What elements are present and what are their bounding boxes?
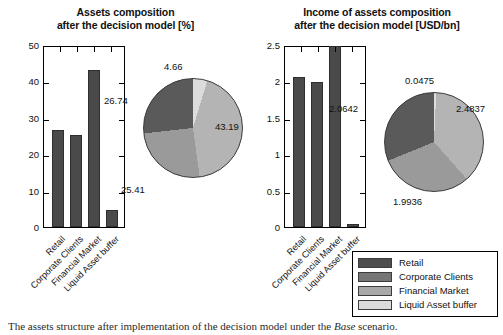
income-title-line1: Income of assets composition <box>251 6 503 19</box>
legend-swatch-financial-market <box>358 286 392 296</box>
assets-ytick-label: 20 <box>15 150 39 159</box>
assets-composition-title: Assets composition after the decision mo… <box>0 6 251 32</box>
legend-label-retail: Retail <box>399 258 423 268</box>
income-y-tick-right <box>360 120 365 121</box>
assets-ytick-label: 10 <box>15 187 39 196</box>
income-title-line2: after the decision model [USD/bn] <box>251 19 503 32</box>
income-top-tick <box>301 47 302 52</box>
caption-emphasis: Base <box>334 320 355 332</box>
legend-label-liquid-asset-buffer: Liquid Asset buffer <box>399 300 477 310</box>
income-y-tick <box>285 156 290 157</box>
bar-financial-market <box>329 46 341 227</box>
income-pie-value-corporate: 1.9936 <box>393 197 422 207</box>
bar-financial-market <box>88 70 100 227</box>
income-ytick-label: 1 <box>256 150 280 159</box>
income-ytick-label: 1.5 <box>256 114 280 123</box>
income-top-tick <box>352 47 353 52</box>
income-pie-value-liquid: 0.0475 <box>405 76 434 86</box>
income-ytick-label: 0.5 <box>256 187 280 196</box>
legend-label-corporate-clients: Corporate Clients <box>399 272 473 282</box>
income-y-tick-right <box>360 193 365 194</box>
legend-swatch-corporate-clients <box>358 272 392 282</box>
assets-y-tick-right <box>119 83 124 84</box>
assets-ytick-label: 30 <box>15 114 39 123</box>
assets-pie-value-retail: 26.74 <box>104 96 128 106</box>
assets-y-tick-right <box>119 120 124 121</box>
legend-swatch-liquid-asset-buffer <box>358 300 392 310</box>
bar-liquid-asset-buffer <box>106 210 118 227</box>
bar-retail <box>52 130 64 227</box>
bar-retail <box>293 77 305 227</box>
assets-top-tick <box>94 47 95 52</box>
income-composition-title: Income of assets composition after the d… <box>251 6 503 32</box>
bar-liquid-asset-buffer <box>347 224 359 228</box>
assets-top-tick <box>111 47 112 52</box>
bar-corporate-clients <box>311 82 323 227</box>
assets-pie-value-corporate: 25.41 <box>121 185 145 195</box>
income-top-tick <box>335 47 336 52</box>
assets-composition-panel: Assets composition after the decision mo… <box>0 0 251 300</box>
income-ytick-label: 2 <box>256 77 280 86</box>
figure-root: Assets composition after the decision mo… <box>0 0 503 335</box>
assets-ytick-label: 50 <box>15 41 39 50</box>
income-y-tick <box>285 193 290 194</box>
assets-bar-series <box>44 47 124 227</box>
legend: Retail Corporate Clients Financial Marke… <box>352 251 498 317</box>
income-pie-value-financial: 2.4837 <box>456 104 485 114</box>
legend-item-retail: Retail <box>358 256 492 269</box>
legend-swatch-retail <box>358 258 392 268</box>
figure-caption: The assets structure after implementatio… <box>8 320 498 332</box>
assets-y-tick <box>44 193 49 194</box>
income-bar-series <box>285 47 365 227</box>
income-top-tick <box>318 47 319 52</box>
assets-top-tick <box>60 47 61 52</box>
income-ytick-label: 0 <box>256 223 280 232</box>
assets-pie-value-financial: 43.19 <box>215 122 239 132</box>
assets-ytick-label: 40 <box>15 77 39 86</box>
caption-text-before: The assets structure after implementatio… <box>8 320 334 332</box>
income-y-tick <box>285 120 290 121</box>
income-y-tick-right <box>360 156 365 157</box>
assets-y-tick <box>44 120 49 121</box>
income-pie-value-retail: 2.0642 <box>329 104 358 114</box>
assets-title-line2: after the decision model [%] <box>0 19 251 32</box>
assets-ytick-label: 0 <box>15 223 39 232</box>
income-y-tick <box>285 83 290 84</box>
legend-label-financial-market: Financial Market <box>399 286 469 296</box>
assets-y-tick <box>44 83 49 84</box>
assets-top-tick <box>77 47 78 52</box>
income-ytick-label: 2.5 <box>256 41 280 50</box>
assets-bar-axes <box>43 46 125 228</box>
bar-corporate-clients <box>70 135 82 228</box>
income-y-tick-right <box>360 83 365 84</box>
assets-pie-value-liquid: 4.66 <box>164 62 183 72</box>
legend-item-corporate-clients: Corporate Clients <box>358 270 492 283</box>
assets-y-tick <box>44 156 49 157</box>
income-bar-axes <box>284 46 366 228</box>
caption-text-after: scenario. <box>355 320 397 332</box>
assets-y-tick-right <box>119 156 124 157</box>
assets-title-line1: Assets composition <box>0 6 251 19</box>
legend-item-financial-market: Financial Market <box>358 285 492 298</box>
legend-item-liquid-asset-buffer: Liquid Asset buffer <box>358 299 492 312</box>
